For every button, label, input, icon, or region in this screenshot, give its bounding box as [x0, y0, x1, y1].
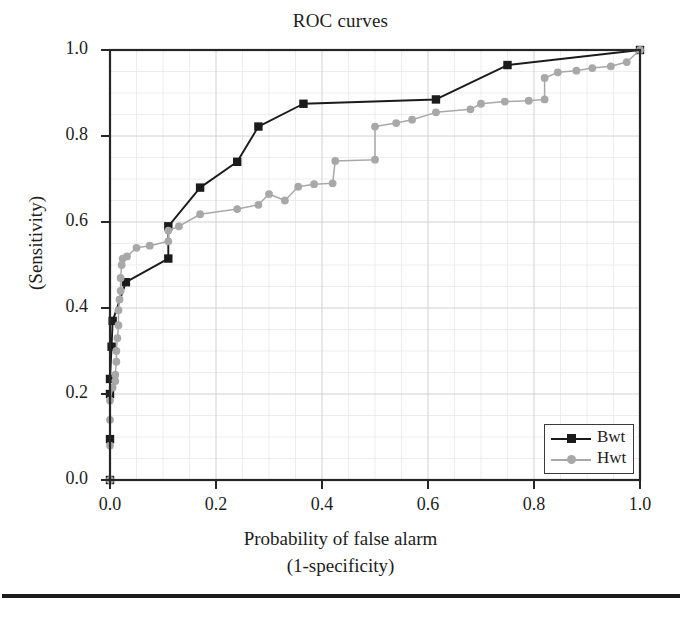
- x-tick-label: 0.8: [504, 494, 564, 515]
- data-point-circle-marker: [525, 97, 533, 105]
- data-point-square-marker: [432, 95, 440, 103]
- data-point-circle-marker: [175, 222, 183, 230]
- page-footer-rule: [2, 594, 680, 598]
- x-tick-label: 0.4: [292, 494, 352, 515]
- y-tick-label: 1.0: [42, 38, 88, 59]
- data-point-circle-marker: [329, 179, 337, 187]
- legend-square-marker-icon: [567, 434, 576, 443]
- data-point-circle-marker: [408, 116, 416, 124]
- y-tick-label: 0.0: [42, 468, 88, 489]
- data-point-circle-marker: [123, 253, 131, 261]
- data-point-circle-marker: [115, 321, 123, 329]
- data-point-square-marker: [233, 158, 241, 166]
- minor-gridlines: [110, 50, 640, 480]
- data-point-square-marker: [196, 183, 204, 191]
- legend[interactable]: Bwt Hwt: [544, 424, 634, 474]
- data-point-square-marker: [299, 100, 307, 108]
- data-point-circle-marker: [310, 180, 318, 188]
- data-point-circle-marker: [477, 100, 485, 108]
- x-axis-label: Probability of false alarm: [0, 528, 681, 550]
- x-axis-sublabel: (1-specificity): [0, 555, 681, 577]
- data-point-circle-marker: [164, 237, 172, 245]
- data-point-square-marker: [254, 122, 262, 130]
- y-axis-label: (Sensitivity): [25, 163, 47, 323]
- y-tick-label: 0.8: [42, 124, 88, 145]
- data-point-circle-marker: [554, 68, 562, 76]
- data-point-circle-marker: [117, 274, 125, 282]
- data-point-circle-marker: [331, 157, 339, 165]
- data-point-circle-marker: [117, 287, 125, 295]
- data-point-circle-marker: [294, 183, 302, 191]
- legend-entry-hwt[interactable]: Hwt: [551, 449, 631, 471]
- y-tick-label: 0.6: [42, 210, 88, 231]
- data-point-circle-marker: [196, 210, 204, 218]
- x-tick-label: 0.6: [398, 494, 458, 515]
- data-point-circle-marker: [392, 119, 400, 127]
- data-point-circle-marker: [133, 244, 141, 252]
- data-point-square-marker: [503, 61, 511, 69]
- data-point-circle-marker: [233, 205, 241, 213]
- data-point-circle-marker: [607, 62, 615, 70]
- plot-canvas: [0, 0, 681, 617]
- y-tick-label: 0.4: [42, 296, 88, 317]
- data-point-circle-marker: [432, 108, 440, 116]
- data-point-circle-marker: [111, 371, 119, 379]
- legend-entry-bwt[interactable]: Bwt: [551, 428, 631, 450]
- x-tick-label: 0.2: [186, 494, 246, 515]
- data-point-circle-marker: [164, 227, 172, 235]
- data-point-circle-marker: [467, 105, 475, 113]
- data-point-circle-marker: [146, 242, 154, 250]
- legend-label: Hwt: [597, 448, 626, 468]
- data-point-circle-marker: [371, 123, 379, 131]
- data-point-circle-marker: [112, 347, 120, 355]
- data-point-circle-marker: [255, 201, 263, 209]
- data-point-circle-marker: [371, 156, 379, 164]
- x-tick-label: 1.0: [610, 494, 670, 515]
- data-point-square-marker: [164, 254, 172, 262]
- data-point-circle-marker: [541, 96, 549, 104]
- y-tick-label: 0.2: [42, 382, 88, 403]
- legend-label: Bwt: [597, 427, 625, 447]
- data-point-circle-marker: [541, 74, 549, 82]
- data-point-circle-marker: [115, 306, 123, 314]
- data-point-circle-marker: [588, 64, 596, 72]
- data-point-circle-marker: [281, 197, 289, 205]
- roc-curves-figure: ROC curves 0.00.20.40.60.81.0 0.00.20.40…: [0, 0, 681, 617]
- data-point-circle-marker: [114, 334, 122, 342]
- data-point-circle-marker: [623, 58, 631, 66]
- data-point-circle-marker: [501, 98, 509, 106]
- legend-circle-marker-icon: [567, 455, 576, 464]
- data-point-circle-marker: [573, 67, 581, 75]
- data-point-circle-marker: [112, 358, 120, 366]
- data-point-circle-marker: [265, 190, 273, 198]
- x-tick-label: 0.0: [80, 494, 140, 515]
- data-point-circle-marker: [116, 296, 124, 304]
